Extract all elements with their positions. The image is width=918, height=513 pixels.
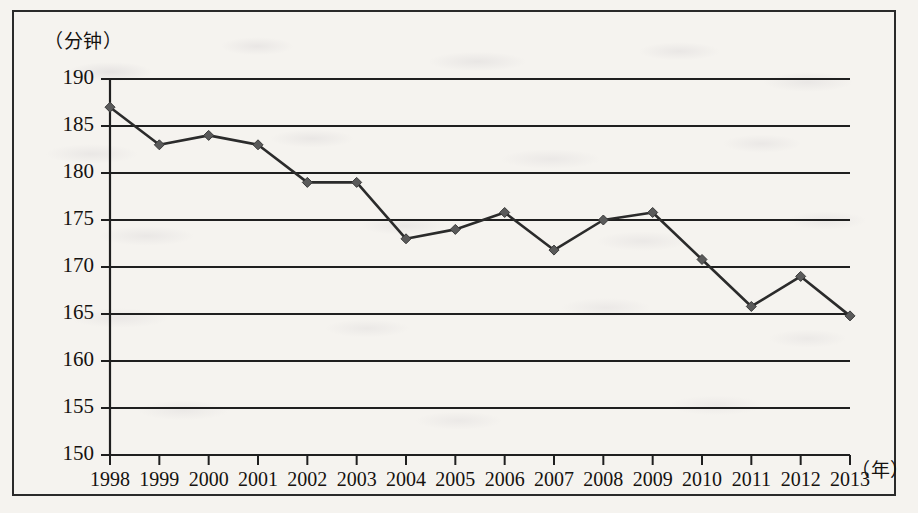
x-tick-label: 1999 bbox=[139, 468, 179, 491]
y-tick-label: 190 bbox=[42, 65, 94, 90]
x-tick-label: 2010 bbox=[682, 468, 722, 491]
x-tick-label: 2007 bbox=[534, 468, 574, 491]
y-axis-group bbox=[101, 78, 110, 455]
x-tick-label: 2009 bbox=[633, 468, 673, 491]
x-tick-label: 2012 bbox=[781, 468, 821, 491]
x-tick-label: 2003 bbox=[337, 468, 377, 491]
x-axis-group bbox=[110, 455, 850, 465]
data-point-marker bbox=[450, 224, 460, 234]
y-tick-label: 165 bbox=[42, 300, 94, 325]
line-chart bbox=[0, 0, 918, 513]
data-point-marker bbox=[204, 130, 214, 140]
gridlines-group bbox=[110, 79, 850, 455]
y-tick-label: 160 bbox=[42, 347, 94, 372]
x-tick-label: 2001 bbox=[238, 468, 278, 491]
y-tick-label: 150 bbox=[42, 441, 94, 466]
y-tick-label: 180 bbox=[42, 159, 94, 184]
data-series-group bbox=[105, 102, 855, 321]
data-line bbox=[110, 107, 850, 316]
x-tick-label: 1998 bbox=[90, 468, 130, 491]
y-tick-label: 185 bbox=[42, 112, 94, 137]
x-tick-label: 2000 bbox=[189, 468, 229, 491]
y-tick-label: 155 bbox=[42, 394, 94, 419]
y-tick-label: 175 bbox=[42, 206, 94, 231]
page-root: （分钟） （年） 150155160165170175180185190 199… bbox=[0, 0, 918, 513]
x-tick-label: 2004 bbox=[386, 468, 426, 491]
x-tick-label: 2011 bbox=[732, 468, 771, 491]
x-tick-label: 2006 bbox=[485, 468, 525, 491]
x-tick-label: 2013 bbox=[830, 468, 870, 491]
x-tick-label: 2002 bbox=[287, 468, 327, 491]
x-tick-label: 2008 bbox=[583, 468, 623, 491]
y-tick-label: 170 bbox=[42, 253, 94, 278]
x-tick-label: 2005 bbox=[435, 468, 475, 491]
